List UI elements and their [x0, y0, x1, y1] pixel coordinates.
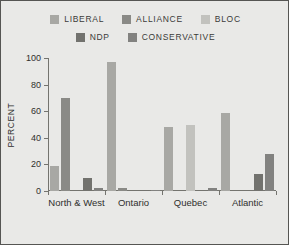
legend-swatch-icon [50, 15, 59, 24]
bar-ndp[interactable] [83, 178, 92, 191]
y-axis-title-label: PERCENT [6, 102, 16, 147]
legend-swatch-icon [201, 15, 210, 24]
bar-liberal[interactable] [221, 113, 230, 191]
bar-conservative[interactable] [151, 190, 160, 191]
y-tick-label: 80 [31, 80, 41, 90]
bar-conservative[interactable] [265, 154, 274, 191]
bar-bloc[interactable] [186, 125, 195, 192]
x-category-label: Atlantic [219, 197, 276, 209]
legend-row: LIBERALALLIANCEBLOC [1, 10, 289, 28]
x-tick-mark [276, 191, 277, 195]
bar-group [105, 58, 162, 191]
bar-ndp[interactable] [140, 190, 149, 191]
bar-alliance[interactable] [61, 98, 70, 191]
bar-liberal[interactable] [107, 62, 116, 191]
bar-group [48, 58, 105, 191]
legend-label: NDP [90, 32, 110, 42]
bar-liberal[interactable] [164, 127, 173, 191]
x-category-label: North & West [48, 197, 105, 209]
legend-swatch-icon [128, 33, 137, 42]
x-tick-mark [105, 191, 106, 195]
plot-area: 020406080100 [48, 58, 276, 191]
bar-alliance[interactable] [118, 188, 127, 191]
y-tick-label: 20 [31, 159, 41, 169]
x-tick-mark [219, 191, 220, 195]
legend-row: NDPCONSERVATIVE [1, 28, 289, 46]
legend-swatch-icon [122, 15, 131, 24]
x-category-label: Quebec [162, 197, 219, 209]
bar-liberal[interactable] [50, 166, 59, 191]
y-axis-title: PERCENT [5, 58, 17, 191]
x-category-label: Ontario [105, 197, 162, 209]
legend-label: ALLIANCE [136, 14, 183, 24]
legend-item-alliance[interactable]: ALLIANCE [122, 14, 183, 24]
bar-conservative[interactable] [208, 188, 217, 191]
legend-item-conservative[interactable]: CONSERVATIVE [128, 32, 216, 42]
legend-label: LIBERAL [64, 14, 104, 24]
bar-group [219, 58, 276, 191]
y-tick-label: 40 [31, 133, 41, 143]
bar-conservative[interactable] [94, 188, 103, 191]
legend-swatch-icon [76, 33, 85, 42]
bar-ndp[interactable] [254, 174, 263, 191]
chart-legend: LIBERALALLIANCEBLOCNDPCONSERVATIVE [1, 10, 289, 46]
legend-item-bloc[interactable]: BLOC [201, 14, 241, 24]
legend-item-ndp[interactable]: NDP [76, 32, 110, 42]
legend-item-liberal[interactable]: LIBERAL [50, 14, 104, 24]
legend-label: BLOC [215, 14, 241, 24]
x-tick-mark [162, 191, 163, 195]
bar-chart-figure: LIBERALALLIANCEBLOCNDPCONSERVATIVE PERCE… [0, 0, 289, 245]
x-tick-mark [48, 191, 49, 195]
bar-group [162, 58, 219, 191]
y-tick-label: 0 [36, 186, 41, 196]
legend-label: CONSERVATIVE [142, 32, 216, 42]
y-tick-label: 100 [26, 53, 41, 63]
y-tick-label: 60 [31, 106, 41, 116]
